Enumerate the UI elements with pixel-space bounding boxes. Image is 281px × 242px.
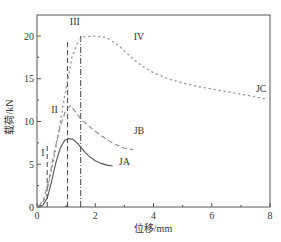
x-tick-label: 0 — [35, 210, 40, 221]
y-tick-label: 5 — [29, 159, 34, 170]
annotations: IIIIIIIVJAJBJC — [41, 16, 267, 167]
data-series — [37, 36, 267, 207]
x-tick-label: 6 — [209, 210, 214, 221]
x-tick-label: 8 — [268, 210, 273, 221]
label-I: I — [41, 147, 44, 158]
axis-ticks: 0246805101520 — [24, 31, 273, 222]
series-JC — [37, 36, 267, 207]
x-axis-title: 位移/mm — [134, 222, 173, 234]
load-displacement-chart: 0246805101520 IIIIIIIVJAJBJC 位移/mm 载荷/kN — [0, 0, 281, 242]
x-tick-label: 2 — [93, 210, 98, 221]
x-tick-label: 4 — [151, 210, 156, 221]
y-tick-label: 20 — [24, 31, 34, 42]
label-II: II — [51, 104, 58, 115]
y-tick-label: 0 — [29, 202, 34, 213]
chart-svg: 0246805101520 IIIIIIIVJAJBJC 位移/mm 载荷/kN — [0, 0, 281, 242]
series-JA — [37, 139, 113, 207]
y-axis-title: 载荷/kN — [4, 100, 15, 135]
stage-lines — [47, 36, 80, 207]
y-tick-label: 10 — [24, 116, 34, 127]
label-JC: JC — [256, 83, 267, 94]
label-JA: JA — [119, 156, 131, 167]
y-tick-label: 15 — [24, 73, 34, 84]
label-III: III — [70, 16, 80, 27]
plot-frame — [37, 15, 270, 207]
label-JB: JB — [134, 125, 145, 136]
label-IV: IV — [134, 31, 145, 42]
